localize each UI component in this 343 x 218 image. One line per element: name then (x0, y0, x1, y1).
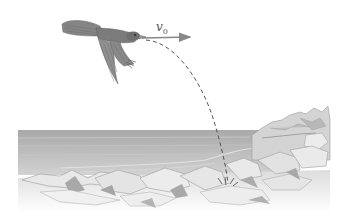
velocity-label: v0 (156, 21, 168, 36)
velocity-arrow (142, 37, 190, 38)
velocity-subscript: 0 (163, 27, 168, 36)
velocity-symbol: v (156, 20, 163, 34)
bird (62, 20, 146, 84)
projectile-diagram (0, 0, 343, 218)
